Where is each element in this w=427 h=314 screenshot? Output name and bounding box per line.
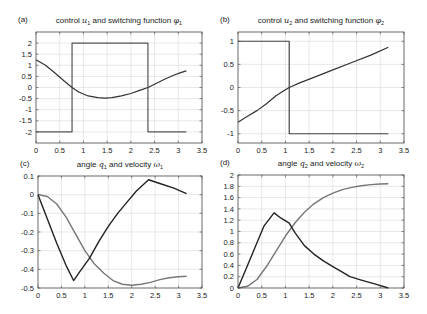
grid-lines — [36, 32, 202, 143]
grid-lines — [238, 32, 404, 143]
x-tick-label: 3.5 — [399, 291, 409, 300]
chart-title: control u2 and switching function φ2 — [258, 16, 384, 26]
x-tick-label: 3 — [176, 146, 180, 155]
x-tick-label: 3 — [378, 291, 382, 300]
x-tick-label: 1 — [283, 291, 287, 300]
x-tick-label: 3.5 — [197, 291, 207, 300]
y-tick-label: -0.2 — [21, 228, 34, 237]
y-tick-label: 1 — [230, 227, 234, 236]
panel-label: (b) — [220, 15, 230, 24]
x-tick-label: 0.5 — [56, 291, 66, 300]
x-tick-label: 2.5 — [149, 146, 159, 155]
y-tick-label: -1 — [25, 105, 32, 114]
chart-title: control u1 and switching function φ1 — [56, 16, 182, 26]
y-tick-label: 1.4 — [224, 205, 234, 214]
panel-label: (d) — [220, 158, 230, 167]
x-tick-label: 2 — [331, 146, 335, 155]
tick-labels: 00.511.522.533.500.20.40.60.811.21.41.61… — [224, 171, 410, 300]
x-tick-label: 0 — [236, 291, 240, 300]
x-tick-label: 3.5 — [197, 146, 207, 155]
y-tick-label: -0.5 — [19, 94, 32, 103]
x-tick-label: 0 — [236, 146, 240, 155]
x-tick-label: 3.5 — [399, 146, 409, 155]
y-tick-label: 0.5 — [22, 72, 32, 81]
x-tick-label: 2 — [129, 146, 133, 155]
x-tick-label: 3 — [378, 146, 382, 155]
y-tick-label: 0.8 — [224, 238, 234, 247]
subplot-b: 00.511.522.533.5-1-0.500.51(b)control u2… — [220, 15, 409, 155]
figure: 00.511.522.533.5-2-1.5-1-0.500.511.52(a)… — [0, 0, 427, 314]
x-tick-label: 1 — [283, 146, 287, 155]
x-tick-label: 0.5 — [54, 146, 64, 155]
x-tick-label: 3 — [176, 291, 180, 300]
subplot-c: 00.511.522.533.5-0.5-0.4-0.3-0.2-0.100.1… — [20, 159, 207, 300]
x-tick-label: 2.5 — [150, 291, 160, 300]
y-tick-label: -1.5 — [19, 116, 32, 125]
y-tick-label: 0.1 — [24, 172, 34, 181]
x-tick-label: 2 — [331, 291, 335, 300]
x-tick-label: 2.5 — [351, 146, 361, 155]
grid-lines — [38, 176, 202, 288]
tick-labels: 00.511.522.533.5-2-1.5-1-0.500.511.52 — [19, 32, 207, 155]
y-tick-label: 0 — [230, 284, 234, 293]
x-tick-label: 1.5 — [103, 291, 113, 300]
y-tick-label: 1.2 — [224, 216, 234, 225]
y-tick-label: 0.5 — [224, 60, 234, 69]
y-tick-label: -0.1 — [21, 209, 34, 218]
y-tick-label: 0 — [30, 190, 34, 199]
y-tick-label: 2 — [230, 171, 234, 180]
panel-label: (a) — [18, 15, 28, 24]
y-tick-label: -0.5 — [21, 284, 34, 293]
x-tick-label: 1.5 — [304, 146, 314, 155]
subplot-d: 00.511.522.533.500.20.40.60.811.21.41.61… — [220, 158, 409, 300]
y-tick-label: -1 — [227, 129, 234, 138]
x-tick-label: 1 — [83, 291, 87, 300]
panel-label: (c) — [20, 159, 30, 168]
y-tick-label: 0 — [230, 83, 234, 92]
x-tick-label: 1 — [81, 146, 85, 155]
x-tick-label: 1.5 — [304, 291, 314, 300]
y-tick-label: 1.8 — [224, 182, 234, 191]
x-tick-label: 1.5 — [102, 146, 112, 155]
chart-canvas: 00.511.522.533.5-2-1.5-1-0.500.511.52(a)… — [0, 0, 427, 314]
y-tick-label: 1.6 — [224, 193, 234, 202]
y-tick-label: -0.3 — [21, 246, 34, 255]
y-tick-label: -2 — [25, 128, 32, 137]
y-tick-label: 1 — [230, 37, 234, 46]
y-tick-label: 2 — [28, 39, 32, 48]
series-q1 — [38, 195, 187, 286]
y-tick-label: -0.5 — [221, 106, 234, 115]
y-tick-label: 0.4 — [224, 261, 234, 270]
y-tick-label: -0.4 — [21, 265, 34, 274]
x-tick-label: 0.5 — [256, 146, 266, 155]
y-tick-label: 0 — [28, 83, 32, 92]
x-tick-label: 2 — [130, 291, 134, 300]
subplot-a: 00.511.522.533.5-2-1.5-1-0.500.511.52(a)… — [18, 15, 207, 155]
chart-title: angle q2 and velocity ω2 — [278, 159, 364, 169]
x-tick-label: 0 — [34, 146, 38, 155]
series-phi2 — [238, 47, 388, 122]
chart-title: angle q1 and velocity ω1 — [77, 160, 163, 170]
x-tick-label: 0 — [36, 291, 40, 300]
y-tick-label: 1.5 — [22, 50, 32, 59]
y-tick-label: 0.6 — [224, 250, 234, 259]
x-tick-label: 0.5 — [256, 291, 266, 300]
y-tick-label: 0.2 — [224, 272, 234, 281]
x-tick-label: 2.5 — [351, 291, 361, 300]
y-tick-label: 1 — [28, 61, 32, 70]
